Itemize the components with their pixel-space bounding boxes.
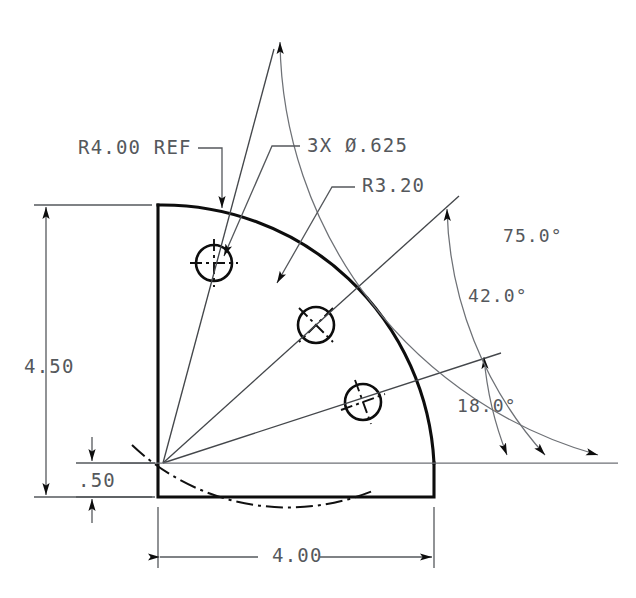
engineering-drawing: R4.00 REF 3X Ø.625 R3.20 4.50 .50 4.00 7…: [0, 0, 636, 598]
leader-hole-callout: [224, 146, 300, 256]
hole-lower: [341, 380, 385, 424]
label-angle-second: 42.0°: [468, 285, 528, 306]
label-hole-callout: 3X Ø.625: [307, 134, 408, 156]
label-height-base: .50: [78, 469, 116, 491]
label-bolt-circle-radius: R3.20: [362, 174, 425, 196]
hole-upper: [190, 239, 238, 287]
leader-radius-ref: [198, 148, 222, 208]
drawing-canvas: R4.00 REF 3X Ø.625 R3.20 4.50 .50 4.00 7…: [0, 0, 636, 598]
label-width-overall: 4.00: [272, 544, 323, 566]
dim-height-overall: [34, 205, 152, 497]
label-angle-third: 75.0°: [503, 225, 563, 246]
angle-dim-75: [280, 42, 598, 455]
label-angle-first: 18.0°: [457, 395, 517, 416]
label-radius-ref: R4.00 REF: [78, 136, 192, 158]
label-height-overall: 4.50: [24, 355, 75, 377]
